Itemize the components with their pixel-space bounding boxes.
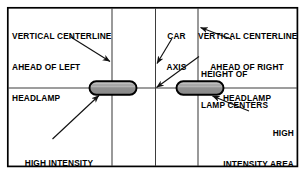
label-vertical-centerline-left-line-1: VERTICAL CENTERLINE <box>12 31 112 41</box>
label-vertical-centerline-left-line-3: HEADLAMP <box>12 93 112 103</box>
label-high-intensity-area-right-line-2: INTENSITY AREA <box>196 159 294 169</box>
label-high-intensity-area-right-line-1: HIGH <box>196 128 294 138</box>
label-height-of-lamp-centers-line-1: HEIGHT OF <box>201 69 293 79</box>
label-car-axis-line-2: AXIS <box>155 62 198 72</box>
label-high-intensity-area-right: HIGH INTENSITY AREA <box>196 108 294 176</box>
diagram-canvas: VERTICAL CENTERLINE AHEAD OF LEFT HEADLA… <box>0 0 307 176</box>
label-vertical-centerline-left-line-2: AHEAD OF LEFT <box>12 62 112 72</box>
label-high-intensity-area-left-line-1: HIGH INTENSITY <box>14 158 104 168</box>
label-vertical-centerline-right-line-1: VERTICAL CENTERLINE <box>198 31 296 41</box>
label-car-axis: CAR AXIS <box>155 11 198 93</box>
label-vertical-centerline-left: VERTICAL CENTERLINE AHEAD OF LEFT HEADLA… <box>12 11 112 123</box>
label-car-axis-line-1: CAR <box>155 31 198 41</box>
label-high-intensity-area-left: HIGH INTENSITY AREA <box>14 138 104 176</box>
